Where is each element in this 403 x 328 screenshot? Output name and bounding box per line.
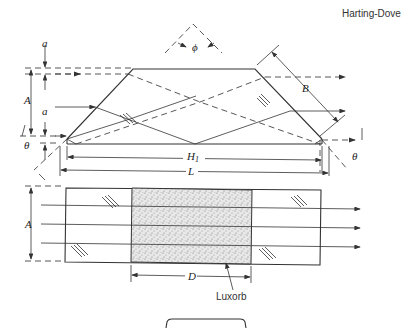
luxorb-label: Luxorb [216,291,247,302]
prism-top-view: A D Luxorb [24,186,360,302]
diagram-title: Harting-Dove [342,8,401,19]
next-figure-partial [166,319,246,328]
L-label: L [187,165,194,177]
theta-right-label: θ [352,150,358,162]
a-top-label: a [42,37,48,49]
phi-label: ϕ [192,41,198,53]
a-mid-label: a [42,105,48,117]
prism-side-view: ϕ a A a θ θ B H1 [20,24,362,180]
B-label: B [302,82,309,94]
D-label: D [187,270,196,282]
glass-hatch-mark [120,94,270,124]
harting-dove-prism-diagram: Harting-Dove [0,0,403,328]
theta-left-label: θ [24,139,30,151]
A-label-bottom: A [24,218,32,230]
A-label-top: A [23,94,31,106]
